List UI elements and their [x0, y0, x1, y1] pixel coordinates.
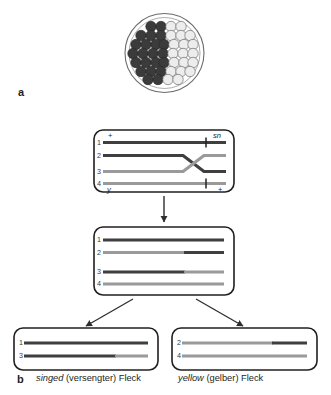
- chromatid-number-3: 3: [97, 168, 101, 175]
- yellow-caption-italic: yellow: [178, 373, 204, 383]
- yellow-spot-box: [172, 328, 317, 370]
- yellow-caption-rest: (gelber) Fleck: [206, 373, 263, 383]
- recombinant-number-4: 4: [97, 280, 101, 287]
- allele-label-top-left: +: [108, 132, 112, 140]
- allele-label-top-right: sn: [213, 132, 221, 140]
- recombinant-number-1: 1: [97, 236, 101, 243]
- chromatid-number-4: 4: [97, 180, 101, 187]
- yellow-number-4: 4: [177, 352, 181, 359]
- light-cell-cluster: [163, 21, 198, 84]
- allele-label-bottom-right: +: [218, 186, 222, 194]
- panel-letter-b: b: [17, 374, 24, 385]
- allele-label-bottom-left: y: [107, 186, 111, 194]
- imaginal-disc-group: [125, 14, 204, 93]
- chromatid-number-2: 2: [97, 152, 101, 159]
- yellow-number-2: 2: [177, 339, 181, 346]
- figure-graphics: [0, 0, 331, 395]
- singed-caption-rest: (versengter) Fleck: [66, 373, 141, 383]
- figure-canvas: a b 1 2 3 4 + sn y + 1 2 3 4 1 3 2 4 sin…: [0, 0, 331, 395]
- arrow-to-yellow-box: [196, 299, 243, 326]
- panel-letter-a: a: [18, 87, 24, 98]
- singed-caption: singed (versengter) Fleck: [36, 374, 141, 383]
- singed-number-3: 3: [19, 352, 23, 359]
- singed-number-1: 1: [19, 339, 23, 346]
- yellow-caption: yellow (gelber) Fleck: [178, 374, 263, 383]
- singed-caption-italic: singed: [36, 373, 63, 383]
- chromatid-number-1: 1: [97, 139, 101, 146]
- recombinant-number-3: 3: [97, 268, 101, 275]
- recombinant-number-2: 2: [97, 249, 101, 256]
- arrow-to-singed-box: [86, 299, 133, 326]
- singed-spot-box: [14, 328, 158, 370]
